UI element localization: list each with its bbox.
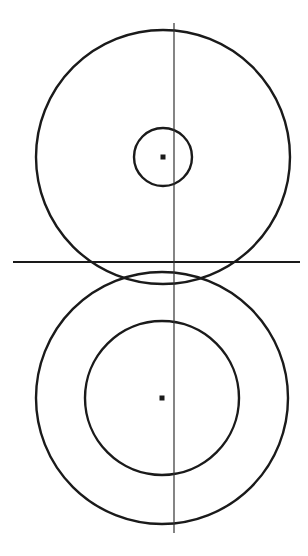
top-circle-assembly (36, 30, 290, 284)
bottom-center-mark (160, 396, 165, 401)
bottom-circle-assembly (36, 272, 288, 524)
diagram-svg (0, 0, 308, 556)
top-center-mark (161, 155, 166, 160)
diagram-canvas (0, 0, 308, 556)
